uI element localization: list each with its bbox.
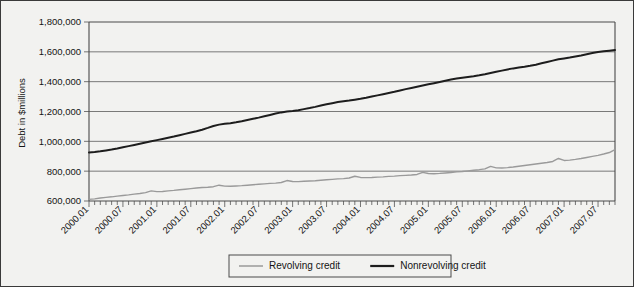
x-tick-label: 2006.01 <box>466 204 498 236</box>
chart-figure: 600,000800,0001,000,0001,200,0001,400,00… <box>0 0 634 287</box>
y-axis-title: Debt in $millions <box>16 78 27 148</box>
credit-debt-line-chart: 600,000800,0001,000,0001,200,0001,400,00… <box>1 1 634 287</box>
x-tick-label: 2001.01 <box>126 204 158 236</box>
x-tick-label: 2005.07 <box>432 204 464 236</box>
x-tick-label: 2007.01 <box>533 204 565 236</box>
y-tick-label: 1,400,000 <box>39 76 81 87</box>
legend-label-nonrevolving-credit: Nonrevolving credit <box>400 260 486 271</box>
y-tick-label: 600,000 <box>47 195 81 206</box>
y-tick-label: 1,600,000 <box>39 46 81 57</box>
x-tick-label: 2003.07 <box>296 204 328 236</box>
x-tick-label: 2001.07 <box>160 204 192 236</box>
x-tick-label: 2007.07 <box>567 204 599 236</box>
y-tick-label: 800,000 <box>47 166 81 177</box>
x-tick-label: 2000.01 <box>58 204 90 236</box>
x-tick-label: 2006.07 <box>500 204 532 236</box>
y-tick-label: 1,200,000 <box>39 106 81 117</box>
x-tick-label: 2004.07 <box>364 204 396 236</box>
x-tick-labels: 2000.012000.072001.012001.072002.012002.… <box>58 204 599 236</box>
y-tick-labels: 600,000800,0001,000,0001,200,0001,400,00… <box>39 16 81 206</box>
x-tick-label: 2003.01 <box>262 204 294 236</box>
x-tick-label: 2004.01 <box>330 204 362 236</box>
x-tick-label: 2002.07 <box>228 204 260 236</box>
y-tick-label: 1,000,000 <box>39 136 81 147</box>
y-tick-label: 1,800,000 <box>39 16 81 27</box>
x-tick-label: 2000.07 <box>92 204 124 236</box>
y-tick-marks <box>84 22 89 201</box>
chart-legend: Revolving creditNonrevolving credit <box>229 255 486 277</box>
x-tick-label: 2002.01 <box>194 204 226 236</box>
x-tick-label: 2005.01 <box>398 204 430 236</box>
legend-label-revolving-credit: Revolving credit <box>269 260 340 271</box>
